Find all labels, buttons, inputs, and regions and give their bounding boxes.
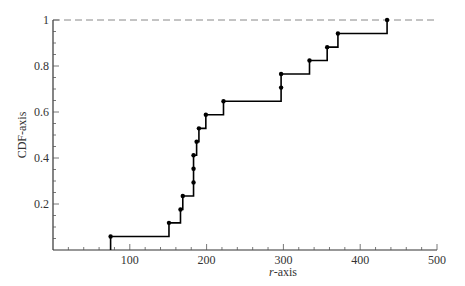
- data-point: [221, 99, 225, 103]
- x-axis-label: r-axis: [269, 265, 297, 279]
- data-point: [191, 153, 195, 157]
- data-point: [181, 194, 185, 198]
- cdf-chart: 1002003004005000.20.40.60.81 r-axis CDF-…: [0, 0, 465, 286]
- data-point: [279, 72, 283, 76]
- data-point: [307, 58, 311, 62]
- x-tick-label: 100: [121, 253, 139, 267]
- y-tick-label: 0.8: [34, 59, 49, 73]
- data-point: [191, 180, 195, 184]
- y-tick-label: 0.2: [34, 197, 49, 211]
- data-point: [167, 221, 171, 225]
- data-point: [197, 126, 201, 130]
- axis-ticks: 1002003004005000.20.40.60.81: [34, 13, 446, 267]
- data-point: [194, 139, 198, 143]
- x-tick-label: 400: [351, 253, 369, 267]
- x-tick-label: 500: [428, 253, 446, 267]
- data-point: [204, 113, 208, 117]
- data-point: [108, 234, 112, 238]
- data-point: [191, 167, 195, 171]
- y-tick-label: 1: [43, 13, 49, 27]
- y-tick-label: 0.4: [34, 151, 49, 165]
- cdf-step-series: [108, 18, 389, 250]
- cdf-step-line: [111, 20, 387, 250]
- data-point: [279, 85, 283, 89]
- data-point: [325, 45, 329, 49]
- y-axis-label: CDF-axis: [15, 111, 29, 158]
- data-point: [178, 207, 182, 211]
- axes: [53, 20, 437, 250]
- x-tick-label: 200: [198, 253, 216, 267]
- data-point: [336, 31, 340, 35]
- data-point: [385, 18, 389, 22]
- y-tick-label: 0.6: [34, 105, 49, 119]
